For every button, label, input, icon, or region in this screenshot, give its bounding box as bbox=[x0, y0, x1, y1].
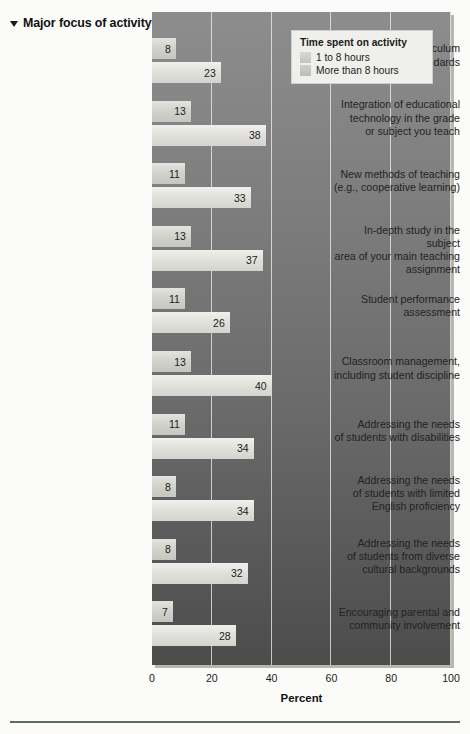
category-label: Addressing the needsof students with dis… bbox=[328, 418, 470, 444]
bar: 26 bbox=[152, 312, 230, 333]
bar: 23 bbox=[152, 62, 221, 83]
axis-tick-label: 60 bbox=[325, 672, 337, 684]
category-label-line: of students from diverse bbox=[328, 550, 460, 563]
legend-item-label: 1 to 8 hours bbox=[316, 52, 370, 63]
bar: 13 bbox=[152, 351, 191, 372]
bar: 32 bbox=[152, 563, 248, 584]
bar-value-label: 8 bbox=[165, 43, 171, 55]
category-label-line: Addressing the needs bbox=[328, 418, 460, 431]
legend-swatch-icon bbox=[300, 65, 311, 76]
legend-swatch-icon bbox=[300, 52, 311, 63]
category-label-line: Encouraging parental and bbox=[328, 606, 460, 619]
bar-value-label: 13 bbox=[174, 230, 186, 242]
chart-figure: Major focus of activity State or distric… bbox=[0, 0, 470, 734]
category-label-line: Integration of educational bbox=[328, 98, 460, 111]
category-label-line: technology in the grade bbox=[328, 112, 460, 125]
category-label-line: (e.g., cooperative learning) bbox=[328, 181, 460, 194]
category-label: Addressing the needsof students with lim… bbox=[328, 474, 470, 514]
bar: 34 bbox=[152, 500, 254, 521]
bar-value-label: 40 bbox=[255, 380, 267, 392]
axis-title: Percent bbox=[152, 692, 451, 704]
category-label-line: cultural backgrounds bbox=[328, 563, 460, 576]
category-label-line: Addressing the needs bbox=[328, 537, 460, 550]
category-label-line: Student performance bbox=[328, 293, 460, 306]
bar: 38 bbox=[152, 125, 266, 146]
category-label-line: New methods of teaching bbox=[328, 168, 460, 181]
bar-value-label: 28 bbox=[219, 630, 231, 642]
category-label-line: assignment bbox=[328, 263, 460, 276]
bar-value-label: 8 bbox=[165, 543, 171, 555]
axis-tick-label: 20 bbox=[206, 672, 218, 684]
bar: 7 bbox=[152, 601, 173, 622]
category-label: In-depth study in the subjectarea of you… bbox=[328, 224, 470, 277]
category-label-line: English proficiency bbox=[328, 500, 460, 513]
bar: 28 bbox=[152, 625, 236, 646]
axis-tick-label: 0 bbox=[149, 672, 155, 684]
legend-title: Time spent on activity bbox=[300, 37, 424, 48]
bar-value-label: 34 bbox=[237, 505, 249, 517]
category-label-line: Classroom management, bbox=[328, 355, 460, 368]
bar-value-label: 38 bbox=[249, 129, 261, 141]
bar-value-label: 13 bbox=[174, 356, 186, 368]
bar-value-label: 11 bbox=[169, 168, 180, 180]
bar: 13 bbox=[152, 226, 191, 247]
legend-item-1-to-8-hours: 1 to 8 hours bbox=[300, 52, 424, 63]
category-label-line: of students with disabilities bbox=[328, 431, 460, 444]
bar-value-label: 34 bbox=[237, 442, 249, 454]
bar-value-label: 33 bbox=[234, 192, 246, 204]
bar-value-label: 11 bbox=[169, 293, 180, 305]
category-label: Integration of educationaltechnology in … bbox=[328, 98, 470, 138]
bar: 11 bbox=[152, 414, 185, 435]
axis-tick-label: 80 bbox=[385, 672, 397, 684]
page-title: Major focus of activity bbox=[23, 16, 152, 30]
legend-item-label: More than 8 hours bbox=[316, 65, 399, 76]
bar: 33 bbox=[152, 187, 251, 208]
bar-value-label: 23 bbox=[204, 67, 216, 79]
bar: 13 bbox=[152, 101, 191, 122]
bottom-divider bbox=[10, 721, 460, 723]
category-label-line: Addressing the needs bbox=[328, 474, 460, 487]
category-label-line: assessment bbox=[328, 306, 460, 319]
bar: 11 bbox=[152, 288, 185, 309]
bar-value-label: 37 bbox=[246, 254, 258, 266]
category-label: Student performanceassessment bbox=[328, 293, 470, 319]
bar-value-label: 8 bbox=[165, 481, 171, 493]
category-label-line: of students with limited bbox=[328, 487, 460, 500]
category-label: Classroom management,including student d… bbox=[328, 355, 470, 381]
category-label-line: area of your main teaching bbox=[328, 250, 460, 263]
bar-value-label: 32 bbox=[231, 567, 243, 579]
category-label: Encouraging parental andcommunity involv… bbox=[328, 606, 470, 632]
chart-header: Major focus of activity bbox=[10, 14, 160, 32]
triangle-down-icon bbox=[10, 21, 18, 27]
category-label: New methods of teaching(e.g., cooperativ… bbox=[328, 168, 470, 194]
bar: 34 bbox=[152, 438, 254, 459]
bar: 8 bbox=[152, 539, 176, 560]
bar: 8 bbox=[152, 476, 176, 497]
category-label-line: including student discipline bbox=[328, 369, 460, 382]
legend-item-more-than-8-hours: More than 8 hours bbox=[300, 65, 424, 76]
category-label: Addressing the needsof students from div… bbox=[328, 537, 470, 577]
axis-tick-label: 40 bbox=[266, 672, 278, 684]
axis-tick-label: 100 bbox=[442, 672, 460, 684]
bar: 37 bbox=[152, 250, 263, 271]
bar: 11 bbox=[152, 163, 185, 184]
bar-value-label: 7 bbox=[162, 606, 168, 618]
bar-value-label: 26 bbox=[213, 317, 225, 329]
category-label-line: or subject you teach bbox=[328, 125, 460, 138]
category-label-line: community involvement bbox=[328, 619, 460, 632]
bar-value-label: 11 bbox=[169, 418, 180, 430]
bar: 40 bbox=[152, 375, 272, 396]
bar-value-label: 13 bbox=[174, 105, 186, 117]
bar: 8 bbox=[152, 38, 176, 59]
chart-legend: Time spent on activity 1 to 8 hours More… bbox=[291, 30, 433, 84]
gridline bbox=[271, 12, 272, 665]
category-label-line: In-depth study in the subject bbox=[328, 224, 460, 250]
